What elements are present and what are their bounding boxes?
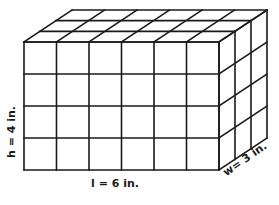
height-label: h = 4 in. <box>5 106 18 158</box>
rectangular-prism-diagram: h = 4 in. l = 6 in. w= 3 in. <box>0 0 279 205</box>
cube-grid-lines <box>24 10 267 170</box>
length-label: l = 6 in. <box>91 177 139 190</box>
width-label: w= 3 in. <box>221 139 270 179</box>
